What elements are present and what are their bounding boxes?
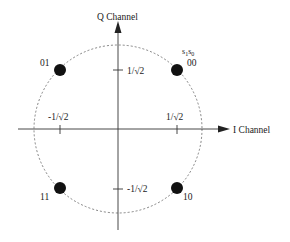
q-axis-label: Q Channel <box>97 12 138 22</box>
point-11 <box>54 182 66 194</box>
constellation-diagram: Q Channel I Channel 1/√2 -1/√2 -1/√2 1/√… <box>0 0 290 242</box>
point-01-label: 01 <box>40 58 50 68</box>
point-00-label: 00 <box>187 58 197 68</box>
i-tick-neg-label: -1/√2 <box>48 112 69 122</box>
q-axis-arrow-icon <box>115 21 122 33</box>
i-axis-label: I Channel <box>233 125 271 135</box>
point-10-label: 10 <box>183 192 193 202</box>
constellation-svg: Q Channel I Channel 1/√2 -1/√2 -1/√2 1/√… <box>0 0 290 242</box>
point-01 <box>54 64 66 76</box>
i-axis-arrow-icon <box>218 126 230 133</box>
point-10 <box>171 182 183 194</box>
i-tick-pos-label: 1/√2 <box>166 112 184 122</box>
bit-order-label: s1s0 <box>182 47 194 57</box>
point-11-label: 11 <box>40 192 49 202</box>
point-00 <box>171 64 183 76</box>
q-tick-neg-label: -1/√2 <box>127 184 148 194</box>
q-tick-pos-label: 1/√2 <box>127 66 145 76</box>
